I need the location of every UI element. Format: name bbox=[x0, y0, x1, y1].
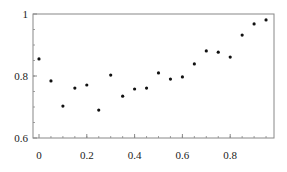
data-point bbox=[37, 57, 40, 60]
data-point bbox=[253, 22, 256, 25]
data-point bbox=[205, 49, 208, 52]
x-tick-label: 0.8 bbox=[223, 149, 237, 161]
data-point bbox=[121, 95, 124, 98]
data-points bbox=[37, 18, 267, 111]
data-point bbox=[217, 51, 220, 54]
data-point bbox=[109, 73, 112, 76]
x-tick-label: 0.2 bbox=[80, 149, 94, 161]
data-point bbox=[169, 78, 172, 81]
data-point bbox=[241, 33, 244, 36]
y-axis: 0.60.81 bbox=[14, 8, 37, 144]
x-tick-label: 0 bbox=[36, 149, 42, 161]
data-point bbox=[49, 79, 52, 82]
y-tick-label: 1 bbox=[23, 8, 29, 20]
data-point bbox=[73, 86, 76, 89]
plot-frame bbox=[33, 14, 274, 138]
data-point bbox=[85, 83, 88, 86]
data-point bbox=[229, 55, 232, 58]
data-point bbox=[193, 62, 196, 65]
x-tick-label: 0.6 bbox=[176, 149, 190, 161]
data-point bbox=[97, 109, 100, 112]
plot-border bbox=[33, 14, 274, 138]
data-point bbox=[264, 18, 267, 21]
data-point bbox=[145, 86, 148, 89]
data-point bbox=[61, 104, 64, 107]
data-point bbox=[133, 87, 136, 90]
scatter-chart: 0.60.81 00.20.40.60.8 bbox=[0, 0, 287, 172]
data-point bbox=[157, 71, 160, 74]
x-tick-label: 0.4 bbox=[128, 149, 142, 161]
data-point bbox=[181, 75, 184, 78]
y-tick-label: 0.8 bbox=[14, 70, 28, 82]
y-tick-label: 0.6 bbox=[14, 132, 28, 144]
